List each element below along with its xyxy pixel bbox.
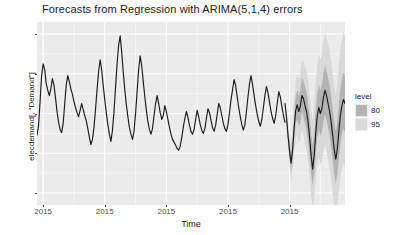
legend-item-label: 80 [371, 106, 380, 115]
legend-item[interactable]: 95 [355, 118, 380, 131]
x-axis-tick-label: 2015 [281, 207, 299, 216]
x-axis-tick-label: 2015 [96, 207, 114, 216]
legend-item[interactable]: 80 [355, 104, 380, 117]
x-axis-tick-label: 2015 [34, 207, 52, 216]
legend-item-label: 95 [371, 120, 380, 129]
legend-swatch [355, 118, 368, 131]
chart-container: Forecasts from Regression with ARIMA(5,1… [0, 0, 401, 235]
plot-panel [37, 22, 345, 205]
legend-swatch [355, 104, 368, 117]
legend: level 8095 [355, 92, 380, 132]
x-axis-title: Time [37, 219, 345, 229]
legend-entries: 8095 [355, 104, 380, 131]
x-axis-tick-label: 2015 [219, 207, 237, 216]
legend-title: level [355, 92, 380, 101]
y-axis-title: elecdemand[, "Demand"] [27, 37, 36, 197]
plot-area [37, 22, 345, 205]
chart-title: Forecasts from Regression with ARIMA(5,1… [42, 3, 303, 15]
x-axis-tick-label: 2015 [157, 207, 175, 216]
